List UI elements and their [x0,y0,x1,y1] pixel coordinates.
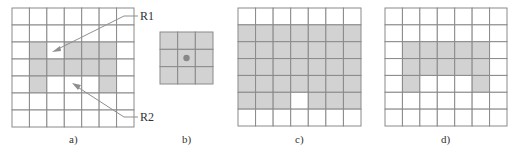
grid-cell-empty [490,75,507,92]
grid-cell-empty [82,110,99,127]
caption-d: d) [441,133,451,146]
grid-cell-shaded [402,42,419,59]
grid-cell-shaded [160,67,178,84]
panel-a-grid [12,8,134,127]
grid-cell-empty [420,92,437,109]
grid-cell-empty [455,109,472,126]
grid-cell-empty [437,25,454,42]
grid-cell-empty [47,25,64,42]
grid-cell-empty [437,92,454,109]
grid-cell-shaded [326,42,344,59]
grid-cell-empty [29,25,46,42]
grid-cell-shaded [238,92,256,109]
grid-cell-empty [308,109,326,126]
grid-cell-empty [385,75,402,92]
grid-cell-empty [490,25,507,42]
grid-cell-empty [455,75,472,92]
caption-a: a) [69,133,78,146]
grid-cell-shaded [291,75,309,92]
grid-cell-empty [455,8,472,25]
grid-cell-shaded [29,59,46,76]
grid-cell-empty [99,93,116,110]
grid-cell-empty [256,8,274,25]
grid-cell-shaded [437,42,454,59]
grid-cell-empty [385,42,402,59]
grid-cell-shaded [308,75,326,92]
grid-cell-empty [117,59,134,76]
grid-cell-shaded [256,59,274,76]
grid-cell-shaded [455,59,472,76]
grid-cell-shaded [178,67,196,84]
grid-cell-empty [490,92,507,109]
grid-cell-empty [29,8,46,25]
grid-cell-empty [64,93,81,110]
grid-cell-empty [437,109,454,126]
r2-label: R2 [140,110,154,124]
grid-cell-empty [420,109,437,126]
grid-cell-empty [420,8,437,25]
grid-cell-shaded [99,42,116,59]
grid-cell-empty [273,109,291,126]
grid-cell-empty [117,76,134,93]
grid-cell-empty [29,110,46,127]
grid-cell-empty [256,109,274,126]
grid-cell-shaded [178,32,196,49]
grid-cell-empty [64,8,81,25]
grid-cell-shaded [47,59,64,76]
grid-cell-shaded [472,75,489,92]
grid-cell-empty [490,8,507,25]
grid-cell-shaded [256,92,274,109]
panel-d-grid [385,8,507,126]
grid-cell-shaded [160,32,178,49]
grid-cell-shaded [82,42,99,59]
grid-cell-shaded [99,76,116,93]
grid-cell-empty [437,8,454,25]
grid-cell-shaded [273,25,291,42]
grid-cell-shaded [238,59,256,76]
grid-cell-shaded [420,42,437,59]
grid-cell-shaded [343,92,361,109]
grid-cell-empty [12,110,29,127]
grid-cell-empty [117,93,134,110]
grid-cell-shaded [273,42,291,59]
grid-cell-shaded [238,42,256,59]
grid-cell-empty [308,8,326,25]
grid-cell-shaded [343,42,361,59]
grid-cell-empty [82,8,99,25]
grid-cell-shaded [291,42,309,59]
grid-cell-empty [99,110,116,127]
grid-cell-empty [472,25,489,42]
caption-c: c) [295,133,304,146]
grid-cell-shaded [402,59,419,76]
grid-cell-empty [455,25,472,42]
grid-cell-empty [402,92,419,109]
grid-cell-shaded [437,59,454,76]
grid-cell-empty [437,75,454,92]
grid-cell-empty [47,8,64,25]
grid-cell-empty [455,92,472,109]
grid-cell-empty [420,75,437,92]
grid-cell-empty [12,93,29,110]
grid-cell-empty [12,42,29,59]
grid-cell-empty [385,109,402,126]
grid-cell-shaded [291,59,309,76]
grid-cell-shaded [273,92,291,109]
grid-cell-empty [64,25,81,42]
grid-cell-shaded [308,25,326,42]
grid-cell-empty [402,8,419,25]
grid-cell-shaded [29,42,46,59]
grid-cell-shaded [326,75,344,92]
grid-cell-empty [82,76,99,93]
grid-cell-shaded [402,75,419,92]
grid-cell-empty [385,8,402,25]
grid-cell-empty [385,25,402,42]
grid-cell-shaded [343,25,361,42]
grid-cell-shaded [160,49,178,66]
grid-cell-empty [117,25,134,42]
grid-cell-shaded [291,25,309,42]
grid-cell-empty [326,109,344,126]
grid-cell-empty [99,8,116,25]
grid-cell-empty [472,8,489,25]
grid-cell-shaded [256,42,274,59]
grid-cell-empty [238,8,256,25]
